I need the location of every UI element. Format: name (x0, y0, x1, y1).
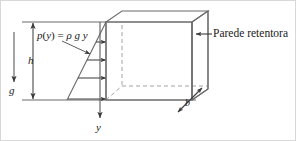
y-axis-label: y (96, 122, 101, 133)
formula-equals: = (55, 29, 67, 41)
figure-canvas (0, 0, 296, 141)
retaining-wall-label: Parede retentora (213, 28, 288, 40)
formula-y-var: y (83, 29, 88, 41)
hydrostatic-pressure-figure: p(y) = ρ g y h g y b Parede retentora (0, 0, 296, 141)
gravity-label: g (9, 85, 15, 96)
pressure-formula-label: p(y) = ρ g y (37, 30, 88, 41)
formula-rho: ρ (66, 29, 71, 41)
depth-label: h (28, 55, 34, 66)
wall-top-face (106, 11, 208, 22)
wall-right-face (192, 11, 208, 100)
thickness-label: b (185, 98, 190, 108)
